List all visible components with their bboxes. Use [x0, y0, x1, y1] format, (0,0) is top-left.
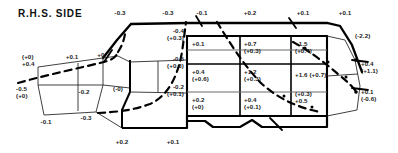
grid-cell-r2c1-primary: +0.4	[192, 68, 205, 75]
grid-cell-r2c3-primary: +1.6 (+0.7)	[295, 71, 326, 78]
right-label-2-primary: +0.4	[361, 60, 374, 67]
grid-cell-r1c3-primary: +1.5	[295, 40, 308, 47]
left-col-label-2-secondary: (+0.3)	[167, 62, 184, 69]
right-label-3-primary: +0.1	[361, 88, 374, 95]
page-title: R.H.S. SIDE	[18, 8, 82, 19]
bottom-sill-line	[122, 116, 327, 128]
grid-cell-r1c2-secondary: (+0.3)	[244, 47, 261, 54]
left-col-label-3-primary: -0.2	[173, 83, 184, 90]
right-label-1: (-2.2)	[355, 32, 370, 39]
top-label-1: -0.3	[114, 9, 125, 16]
witness-ticks	[104, 16, 368, 130]
left-col-label-1-secondary: (+0.3)	[167, 34, 184, 41]
mid-post-line	[122, 60, 130, 128]
grid-cell-r1c2-primary: +0.7	[244, 40, 257, 47]
left-region-label-8: -0.1	[40, 118, 51, 125]
right-label-3-secondary: (-0.6)	[361, 95, 376, 102]
grid-cell-r2c2-secondary: (+0.3)	[244, 75, 261, 82]
left-region-label-2: +0.1	[66, 53, 79, 60]
left-region-label-1-secondary: +0.4	[22, 60, 35, 67]
left-col-label-2-primary: -0.5	[173, 55, 184, 62]
top-label-3: -0.1	[196, 9, 207, 16]
grid-cell-r3c3-primary: (+0.3)	[295, 90, 312, 97]
grid-cell-r3c3-secondary: +0.5	[295, 97, 308, 104]
grid-cell-r3c1-secondary: (+0)	[192, 103, 204, 110]
grid-cell-r2c2-primary: +1.2	[244, 68, 257, 75]
left-col-label-1-primary: -0.4	[173, 27, 184, 34]
right-tail-wireframe	[327, 36, 360, 116]
left-region-label-5: -0.2	[78, 88, 89, 95]
bottom-label-2: +0.1	[167, 138, 180, 145]
left-region-label-6: (-0)	[113, 85, 123, 92]
grid-cell-r2c1-secondary: (+0.6)	[192, 75, 209, 82]
grid-cell-r1c3-secondary: (+0.4)	[295, 47, 312, 54]
left-region-label-4-secondary: (+0)	[16, 92, 28, 99]
bottom-label-1: +0.2	[116, 138, 129, 145]
left-col-label-3-secondary: (+0.1)	[167, 90, 184, 97]
grid-cell-r3c2-primary: +0.4	[244, 96, 257, 103]
right-label-2-secondary: (+1.1)	[361, 67, 378, 74]
grid-cell-r3c2-secondary: (+0.1)	[244, 103, 261, 110]
grid-cell-r1c1-primary: +0.1	[192, 40, 205, 47]
top-label-5: +0.1	[297, 9, 310, 16]
diagram-canvas: R.H.S. SIDE -0.3 -0.3 -0.1 +0.2 +0.1 +0.…	[0, 0, 398, 153]
grid-cell-r3c1-primary: +0.2	[192, 96, 205, 103]
left-region-label-3: +0	[97, 51, 104, 58]
top-label-4: +0.2	[244, 9, 257, 16]
top-label-6: +0.1	[339, 9, 352, 16]
left-region-label-1-primary: (+0)	[22, 53, 34, 60]
left-region-label-4-primary: -0.5	[16, 85, 27, 92]
left-region-label-7: -0.3	[80, 114, 91, 121]
top-label-2: -0.3	[162, 9, 173, 16]
